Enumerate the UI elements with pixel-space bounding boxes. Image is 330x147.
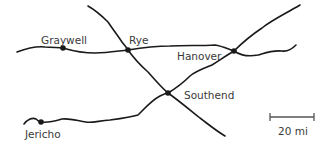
town-node-graywell (60, 45, 66, 51)
town-node-rye (125, 47, 131, 53)
town-label-hanover: Hanover (177, 51, 221, 62)
scale-label: 20 mi (278, 126, 308, 137)
town-node-southend (165, 90, 171, 96)
road-hanover-east (234, 45, 296, 56)
town-label-southend: Southend (184, 90, 234, 101)
scale-bar (270, 113, 314, 121)
town-label-jericho: Jericho (25, 129, 61, 140)
town-label-rye: Rye (129, 35, 148, 46)
town-node-hanover (231, 48, 237, 54)
town-node-jericho (38, 119, 44, 125)
road-north-rye-southend-southeast (88, 6, 225, 136)
town-label-graywell: Graywell (41, 35, 87, 46)
road-jericho-southend-hanover-northeast (24, 5, 300, 124)
